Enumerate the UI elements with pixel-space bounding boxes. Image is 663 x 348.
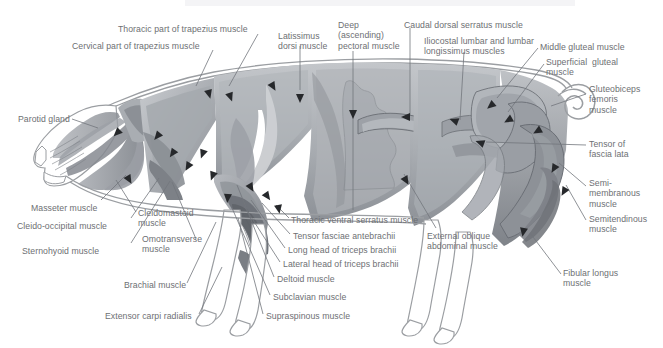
latissimus-thorax-region bbox=[304, 63, 414, 222]
neck-muscles bbox=[140, 78, 216, 200]
label-brachial: Brachial muscle bbox=[124, 280, 186, 290]
label-parotid-gland: Parotid gland bbox=[18, 114, 70, 124]
label-supraspinous: Supraspinous muscle bbox=[266, 311, 350, 321]
label-semimembranous: Semi- membranous muscle bbox=[589, 178, 640, 209]
label-cervical-trapezius: Cervical part of trapezius muscle bbox=[72, 41, 200, 51]
label-subclavian: Subclavian muscle bbox=[273, 292, 346, 302]
label-lateral-head-triceps: Lateral head of triceps brachii bbox=[283, 259, 399, 269]
label-cleidomastoid: Cleidomastoid muscle bbox=[138, 208, 194, 229]
label-thoracic-ventral-serratus: Thoracic ventral serratus muscle bbox=[291, 215, 418, 225]
label-fibular-longus: Fibular longus muscle bbox=[563, 268, 618, 289]
label-long-head-triceps: Long head of triceps brachii bbox=[288, 245, 396, 255]
label-omotransverse: Omotransverse muscle bbox=[142, 234, 202, 255]
label-iliocostal-lumbar: Iliocostal lumbar and lumbar longissimus… bbox=[424, 36, 534, 57]
label-semitendinous: Semitendinous muscle bbox=[589, 214, 647, 235]
label-masseter: Masseter muscle bbox=[31, 203, 97, 213]
label-caudal-dorsal-serratus: Caudal dorsal serratus muscle bbox=[404, 20, 523, 30]
ll-fibular-longus bbox=[530, 233, 561, 274]
label-superficial-gluteal: Superficial gluteal muscle bbox=[546, 57, 618, 78]
label-middle-gluteal: Middle gluteal muscle bbox=[540, 42, 625, 52]
label-thoracic-trapezius: Thoracic part of trapezius muscle bbox=[118, 24, 248, 34]
label-sternohyoid: Sternohyoid muscle bbox=[22, 246, 99, 256]
ah-17 bbox=[197, 149, 208, 160]
label-deltoid: Deltoid muscle bbox=[277, 274, 335, 284]
label-gluteobiceps-femoris: Gluteobiceps femoris muscle bbox=[589, 84, 640, 115]
label-external-oblique: External oblique abdominal muscle bbox=[427, 231, 498, 252]
label-deep-pectoral: Deep (ascending) pectoral muscle bbox=[338, 20, 400, 51]
label-latissimus-dorsi: Latissimus dorsi muscle bbox=[278, 31, 327, 52]
label-tensor-fascia-lata: Tensor of fascia lata bbox=[589, 139, 629, 160]
label-tensor-fasciae-antebrachii: Tensor fasciae antebrachii bbox=[293, 231, 395, 241]
label-cleido-occipital: Cleido-occipital muscle bbox=[17, 221, 107, 231]
label-extensor-carpi-radialis: Extensor carpi radialis bbox=[105, 311, 192, 321]
figure-canvas: Thoracic part of trapezius muscleCervica… bbox=[0, 0, 663, 348]
ah-21 bbox=[262, 191, 274, 203]
